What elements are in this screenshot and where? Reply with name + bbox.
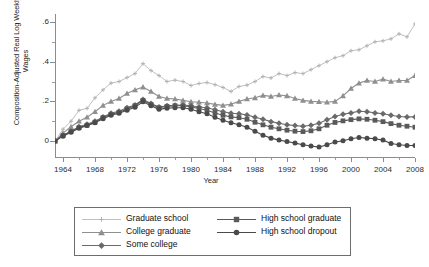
y-tick-label: 0 [23, 137, 49, 145]
legend-item-label: High school graduate [257, 212, 341, 225]
x-tick [159, 158, 160, 162]
x-tick-minor [207, 158, 208, 160]
x-tick-minor [79, 158, 80, 160]
x-tick-label: 1964 [48, 165, 78, 174]
x-tick-minor [239, 158, 240, 160]
x-tick-label: 1988 [240, 165, 270, 174]
x-axis-label: Year [0, 176, 422, 185]
legend-item-label: Graduate school [122, 212, 188, 225]
x-tick-minor [399, 158, 400, 160]
x-tick [415, 158, 416, 162]
x-tick-label: 2008 [400, 165, 429, 174]
x-tick-minor [367, 158, 368, 160]
triangle-marker-icon [81, 225, 122, 238]
x-tick [63, 158, 64, 162]
x-axis-line [55, 157, 415, 158]
x-tick-minor [335, 158, 336, 160]
x-tick-minor [111, 158, 112, 160]
x-tick-label: 1984 [208, 165, 238, 174]
x-tick-label: 1972 [112, 165, 142, 174]
x-tick [255, 158, 256, 162]
x-tick-label: 1996 [304, 165, 334, 174]
x-tick-minor [143, 158, 144, 160]
x-tick [383, 158, 384, 162]
x-tick-minor [303, 158, 304, 160]
x-tick-label: 2000 [336, 165, 366, 174]
x-tick [127, 158, 128, 162]
legend-item[interactable]: High school dropout [216, 225, 341, 238]
square-marker-icon [216, 212, 257, 225]
x-tick [95, 158, 96, 162]
y-tick-label: .2 [23, 97, 49, 105]
x-tick-label: 1980 [176, 165, 206, 174]
x-tick-label: 2004 [368, 165, 398, 174]
series-high-school-dropout [55, 99, 415, 149]
legend-item[interactable]: Some college [81, 238, 191, 251]
y-tick-label: .4 [23, 58, 49, 66]
legend-item-label: High school dropout [257, 225, 337, 238]
x-tick [319, 158, 320, 162]
x-tick [287, 158, 288, 162]
legend-item[interactable]: High school graduate [216, 212, 341, 225]
plus-marker-icon [81, 212, 122, 225]
legend-item-label: Some college [122, 238, 178, 251]
legend-column-1: Graduate schoolCollege graduateSome coll… [81, 212, 191, 251]
legend-item[interactable]: Graduate school [81, 212, 191, 225]
x-tick-label: 1992 [272, 165, 302, 174]
x-tick-label: 1968 [80, 165, 110, 174]
plot-series-layer [55, 14, 415, 157]
circle-marker-icon [216, 225, 257, 238]
legend-item-label: College graduate [122, 225, 191, 238]
legend-item[interactable]: College graduate [81, 225, 191, 238]
y-tick-label: .6 [23, 18, 49, 26]
x-tick [191, 158, 192, 162]
x-tick [223, 158, 224, 162]
x-tick [351, 158, 352, 162]
legend-column-2: High school graduateHigh school dropout [216, 212, 341, 238]
x-tick-minor [271, 158, 272, 160]
x-tick-minor [175, 158, 176, 160]
x-tick-label: 1976 [144, 165, 174, 174]
diamond-marker-icon [81, 238, 122, 251]
chart-legend: Graduate schoolCollege graduateSome coll… [74, 207, 351, 256]
